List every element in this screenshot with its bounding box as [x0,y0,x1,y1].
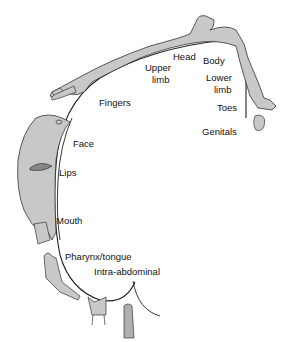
label-pharynx-tongue: Pharynx/tongue [65,252,132,263]
intestine-shape [124,304,134,338]
label-genitals: Genitals [202,127,237,138]
label-lower-limb-1: Lower [206,73,232,84]
label-upper-limb-1: Upper [145,63,171,74]
label-intra-abdominal: Intra-abdominal [94,267,160,278]
label-lower-limb-2: limb [214,85,231,96]
label-face: Face [73,139,94,150]
label-lips: Lips [59,168,76,179]
label-mouth: Mouth [56,216,82,227]
label-toes: Toes [217,103,237,114]
abdominal-line [133,281,160,316]
label-upper-limb-2: limb [152,75,169,86]
pharynx-neck [92,315,105,325]
label-head: Head [173,52,196,63]
pharynx-shape [88,297,106,315]
homunculus-drawing [0,0,287,342]
label-fingers: Fingers [99,98,131,109]
genitals-shape [254,115,265,131]
homunculus-diagram: Head Body Upper limb Lower limb Fingers … [0,0,287,342]
label-body: Body [203,56,225,67]
